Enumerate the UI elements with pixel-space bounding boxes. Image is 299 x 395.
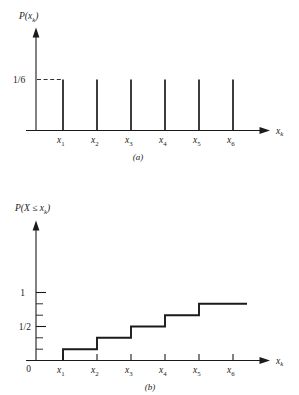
panel-b-ytick-label-half: 1/2 [19,322,31,332]
panel-b-ytick-label-1: 1 [20,288,25,298]
panel-a-xtick-x5: x5 [192,135,201,147]
statistics-figure: P(xk) xk 1/6 x1 x2 x3 x4 [0,0,299,395]
panel-b-xlabel: xk [275,356,284,368]
panel-b-caption: (b) [145,382,156,392]
panel-b-x-axis-arrow-icon [260,357,271,364]
panel-a-xtick-x1: x1 [56,135,65,147]
panel-b-ytick-label-0: 0 [26,364,31,374]
panel-b-staircase-curve [63,304,247,360]
panel-b-xtick-x2: x2 [90,365,99,377]
panel-a-xtick-x2: x2 [90,135,99,147]
panel-b-xtick-x1: x1 [56,365,65,377]
panel-b-xtick-x3: x3 [124,365,133,377]
panel-a-ylabel: P(xk) [18,11,38,23]
panel-b-ylabel: P(X ≤ xk) [14,203,50,215]
panel-a-pmf: P(xk) xk 1/6 x1 x2 x3 x4 [13,11,284,162]
panel-a-xtick-x3: x3 [124,135,133,147]
panel-a-y-axis-arrow-icon [33,28,40,38]
panel-a-ytick-label-1-6: 1/6 [13,75,25,85]
panel-a-xlabel: xk [275,126,284,138]
panel-a-caption: (a) [133,152,144,162]
panel-a-x-axis-arrow-icon [260,127,271,134]
panel-b-xtick-x6: x6 [226,365,235,377]
panel-a-xtick-x6: x6 [226,135,235,147]
panel-b-y-axis-arrow-icon [33,221,40,231]
panel-b-xtick-x4: x4 [158,365,167,377]
panel-b-xtick-x5: x5 [192,365,201,377]
panel-a-xtick-x4: x4 [158,135,167,147]
panel-b-cdf: P(X ≤ xk) xk 1 1/2 0 [14,203,284,392]
figure-root: P(xk) xk 1/6 x1 x2 x3 x4 [0,0,299,395]
